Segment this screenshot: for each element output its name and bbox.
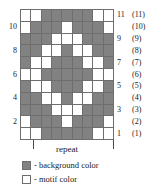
grid-cell[interactable] — [21, 34, 31, 46]
grid-cell[interactable] — [62, 45, 72, 57]
grid-cell[interactable] — [104, 81, 114, 93]
grid-cell[interactable] — [31, 81, 41, 93]
grid-cell[interactable] — [21, 105, 31, 117]
grid-cell[interactable] — [83, 81, 93, 93]
grid-cell[interactable] — [21, 45, 31, 57]
grid-cell[interactable] — [104, 34, 114, 46]
grid-cell[interactable] — [104, 10, 114, 22]
grid-cell[interactable] — [62, 10, 72, 22]
grid-cell[interactable] — [62, 128, 72, 140]
grid-cell[interactable] — [83, 93, 93, 105]
grid-cell[interactable] — [93, 105, 103, 117]
grid-cell[interactable] — [31, 105, 41, 117]
grid-cell[interactable] — [52, 10, 62, 22]
grid-cell[interactable] — [31, 93, 41, 105]
grid-cell[interactable] — [83, 10, 93, 22]
pattern-grid[interactable] — [20, 9, 114, 140]
grid-cell[interactable] — [31, 128, 41, 140]
grid-cell[interactable] — [21, 93, 31, 105]
grid-cell[interactable] — [93, 57, 103, 69]
grid-cell[interactable] — [93, 93, 103, 105]
grid-cell[interactable] — [62, 116, 72, 128]
grid-cell[interactable] — [52, 81, 62, 93]
grid-cell[interactable] — [73, 105, 83, 117]
grid-cell[interactable] — [52, 22, 62, 34]
grid-cell[interactable] — [21, 128, 31, 140]
grid-cell[interactable] — [52, 45, 62, 57]
grid-cell[interactable] — [52, 116, 62, 128]
grid-cell[interactable] — [73, 69, 83, 81]
grid-cell[interactable] — [73, 22, 83, 34]
grid-cell[interactable] — [52, 93, 62, 105]
grid-cell[interactable] — [42, 10, 52, 22]
grid-cell[interactable] — [62, 57, 72, 69]
grid-cell[interactable] — [31, 10, 41, 22]
grid-cell[interactable] — [31, 34, 41, 46]
grid-cell[interactable] — [42, 116, 52, 128]
grid-cell[interactable] — [52, 57, 62, 69]
grid-cell[interactable] — [62, 105, 72, 117]
grid-cell[interactable] — [21, 22, 31, 34]
grid-cell[interactable] — [104, 128, 114, 140]
grid-cell[interactable] — [93, 34, 103, 46]
grid-cell[interactable] — [62, 69, 72, 81]
grid-cell[interactable] — [42, 105, 52, 117]
grid-cell[interactable] — [104, 116, 114, 128]
grid-cell[interactable] — [83, 57, 93, 69]
grid-cell[interactable] — [73, 34, 83, 46]
grid-cell[interactable] — [83, 116, 93, 128]
grid-cell[interactable] — [52, 128, 62, 140]
grid-cell[interactable] — [42, 34, 52, 46]
grid-cell[interactable] — [93, 22, 103, 34]
grid-cell[interactable] — [52, 69, 62, 81]
grid-cell[interactable] — [93, 45, 103, 57]
grid-cell[interactable] — [83, 45, 93, 57]
grid-cell[interactable] — [31, 45, 41, 57]
grid-cell[interactable] — [31, 69, 41, 81]
grid-cell[interactable] — [73, 128, 83, 140]
grid-cell[interactable] — [104, 57, 114, 69]
grid-cell[interactable] — [73, 93, 83, 105]
grid-cell[interactable] — [93, 10, 103, 22]
grid-cell[interactable] — [83, 128, 93, 140]
grid-cell[interactable] — [31, 116, 41, 128]
grid-cell[interactable] — [73, 10, 83, 22]
grid-cell[interactable] — [42, 57, 52, 69]
grid-cell[interactable] — [83, 69, 93, 81]
grid-cell[interactable] — [42, 69, 52, 81]
grid-cell[interactable] — [21, 116, 31, 128]
grid-cell[interactable] — [42, 22, 52, 34]
grid-cell[interactable] — [31, 57, 41, 69]
grid-cell[interactable] — [83, 34, 93, 46]
grid-cell[interactable] — [52, 105, 62, 117]
grid-cell[interactable] — [21, 69, 31, 81]
grid-cell[interactable] — [83, 105, 93, 117]
grid-cell[interactable] — [93, 128, 103, 140]
grid-cell[interactable] — [73, 116, 83, 128]
grid-cell[interactable] — [62, 34, 72, 46]
grid-cell[interactable] — [93, 81, 103, 93]
grid-cell[interactable] — [62, 81, 72, 93]
grid-cell[interactable] — [104, 22, 114, 34]
grid-cell[interactable] — [73, 57, 83, 69]
grid-cell[interactable] — [42, 81, 52, 93]
grid-cell[interactable] — [52, 34, 62, 46]
grid-cell[interactable] — [31, 22, 41, 34]
grid-cell[interactable] — [42, 93, 52, 105]
grid-cell[interactable] — [104, 45, 114, 57]
grid-cell[interactable] — [62, 22, 72, 34]
grid-cell[interactable] — [93, 116, 103, 128]
grid-cell[interactable] — [21, 81, 31, 93]
grid-cell[interactable] — [93, 69, 103, 81]
grid-cell[interactable] — [21, 57, 31, 69]
grid-cell[interactable] — [104, 93, 114, 105]
grid-cell[interactable] — [104, 105, 114, 117]
grid-cell[interactable] — [73, 45, 83, 57]
grid-cell[interactable] — [42, 45, 52, 57]
grid-cell[interactable] — [73, 81, 83, 93]
grid-cell[interactable] — [62, 93, 72, 105]
grid-cell[interactable] — [83, 22, 93, 34]
grid-cell[interactable] — [104, 69, 114, 81]
grid-cell[interactable] — [21, 10, 31, 22]
grid-cell[interactable] — [42, 128, 52, 140]
